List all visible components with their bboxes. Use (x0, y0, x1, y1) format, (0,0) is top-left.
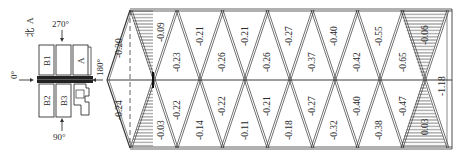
building-b3-label: B3 (59, 95, 69, 106)
lower-value-2: -0.22 (172, 100, 182, 120)
lower-value-9: -0.32 (329, 120, 339, 140)
gable-apex (107, 10, 130, 148)
lower-value-4: -0.22 (217, 96, 227, 116)
lower-value-1: -0.03 (156, 120, 166, 140)
upper-value-8: -0.37 (307, 52, 317, 72)
lower-value-6: -0.21 (262, 96, 272, 116)
arrow-0-head-icon (30, 78, 34, 82)
upper-value-13: -0.06 (420, 25, 430, 45)
upper-value-9: -0.40 (329, 26, 339, 46)
lower-value-7: -0.18 (284, 120, 294, 140)
upper-value-10: -0.42 (352, 52, 362, 72)
upper-value-3: -0.21 (195, 26, 205, 46)
upper-value-5: -0.21 (240, 26, 250, 46)
upper-value-7: -0.27 (284, 26, 294, 46)
building-middle-top (56, 45, 71, 75)
lower-value-10: -0.40 (352, 96, 362, 116)
direction-0-label: 0° (9, 71, 19, 80)
site-plan: 北 A 270° 0° 90° B1 A B2 B3 180° (9, 17, 105, 142)
upper-value-11: -0.55 (374, 26, 384, 46)
building-b1-label: B1 (42, 55, 52, 66)
apex-upper-value: -0.20 (114, 38, 124, 58)
direction-180-label: 180° (95, 59, 105, 77)
building-b2-label: B2 (42, 95, 52, 106)
arrow-90-head-icon (60, 118, 64, 122)
building-c-outline (74, 84, 89, 115)
building-a-label: A (76, 57, 86, 64)
lower-value-8: -0.27 (307, 96, 317, 116)
pressure-labels: -0.20 -0.24 -0.09 -0.23 -0.21 -0.26 -0.2… (114, 22, 447, 140)
lower-value-13: 0.03 (420, 118, 430, 135)
arrow-270-head-icon (60, 38, 64, 42)
upper-value-4: -0.26 (217, 52, 227, 72)
upper-value-1: -0.09 (156, 22, 166, 42)
direction-270-label: 270° (52, 19, 70, 29)
lower-value-5: -0.11 (240, 120, 250, 140)
end-column-value: -1.18 (437, 76, 447, 96)
lower-value-11: -0.38 (374, 120, 384, 140)
upper-value-6: -0.26 (262, 52, 272, 72)
gable-apex-inner (109, 11, 132, 147)
lower-value-12: -0.47 (398, 96, 408, 116)
upper-value-2: -0.23 (172, 52, 182, 72)
north-sub-label: A (25, 17, 35, 24)
direction-90-label: 90° (53, 132, 66, 142)
north-label: 北 (25, 28, 35, 37)
lower-value-3: -0.14 (195, 120, 205, 140)
upper-value-12: -0.65 (398, 52, 408, 72)
wind-pressure-diagram: 北 A 270° 0° 90° B1 A B2 B3 180° (0, 0, 462, 161)
apex-lower-value: -0.24 (114, 100, 124, 120)
